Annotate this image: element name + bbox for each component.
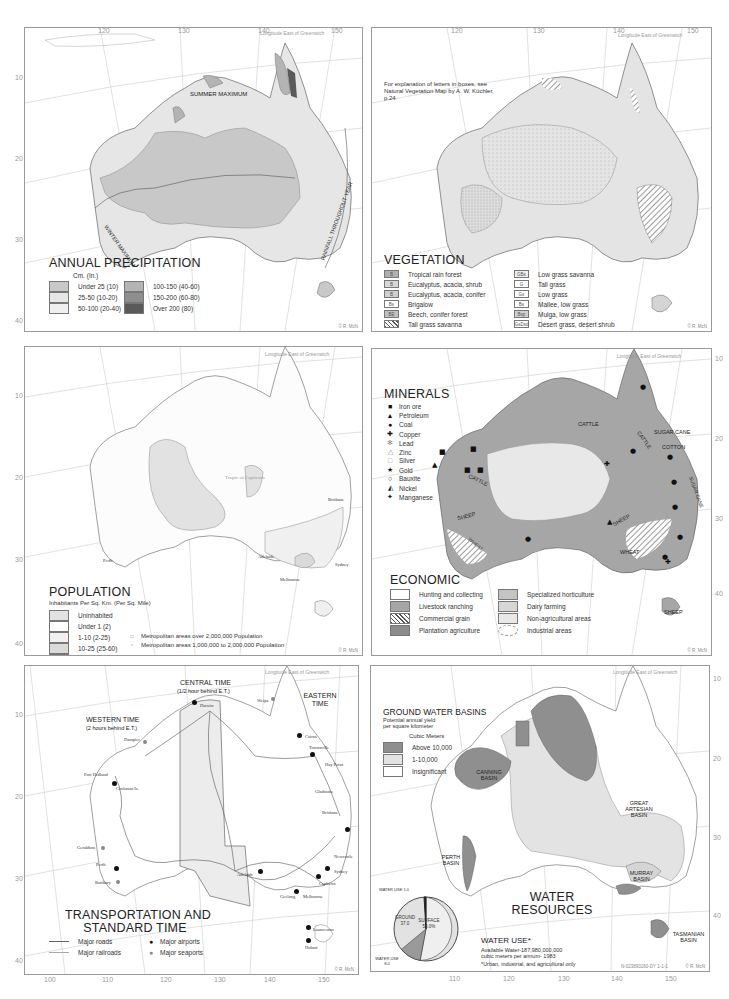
minerals-title: MINERALS [384,387,450,401]
iron-ore-icon: ■ [386,403,394,410]
longitude-label: 140 [264,976,276,983]
latitude-label: 10 [15,392,23,399]
svg-text:●: ● [672,503,678,511]
legend-item: Livestock ranching [390,601,473,612]
city-label: Sydney [335,562,349,567]
mineral-item: ●Coal [386,421,412,428]
legend-swatch [124,281,144,292]
longitude-label: 120 [160,976,172,983]
credit: © R. McN [685,964,705,969]
longitude-label: 150 [318,976,330,983]
coal-icon: ● [386,421,394,428]
longitude-label: 130 [533,27,545,34]
available-water-unit: cubic meters per annum- 1983 [481,953,556,959]
legend-swatch: GBs [514,270,529,278]
summer-maximum-label: SUMMER MAXIMUM [190,91,247,97]
latitude-label: 40 [15,317,23,324]
mineral-item: ✻Lead [386,439,413,447]
latitude-label: 20 [15,474,23,481]
longitude-label: 100 [44,976,56,983]
legend-item: Under 1 (2) [49,621,111,632]
pie-label-surface: SURFACE [417,918,441,923]
legend-item: ●Major seaports [147,949,203,956]
longitude-label: 120 [451,27,463,34]
city-label: Perth [103,558,113,563]
road-line-icon [49,941,69,942]
mineral-item: ★Gold [386,466,413,474]
metro-large-icon: □ [128,633,136,639]
credit: © R. McN [338,648,358,653]
legend-item: BEucalyptus, acacia, conifer [384,290,485,298]
longitude-label: 130 [214,976,226,983]
legend-item: 25-50 (10-20) [49,292,117,303]
longitude-label: 130 [178,27,190,34]
airport-icon: ● [147,938,155,945]
legend-item: 1-10,000 [383,754,438,765]
nickel-icon: ◭ [386,484,394,492]
railroad-line-icon [49,952,69,953]
longitude-label: 150 [687,27,699,34]
latitude-label: 30 [713,834,721,841]
longitude-label: 110 [449,975,460,982]
legend-swatch [49,654,69,656]
mineral-item: □Silver [386,457,415,464]
svg-text:✚: ✚ [604,460,610,468]
graticule-note: Longitude East of Greenwich [265,351,329,357]
legend-item: Under 25 (10) [49,281,118,292]
city-label: Melbourne [303,894,323,899]
svg-text:●: ● [677,533,683,541]
lead-icon: ✻ [386,439,394,447]
silver-icon: □ [386,457,394,464]
city-label: Hobart [305,945,318,950]
legend-item: BEBeech, conifer forest [384,310,468,318]
legend-item: Plantation agriculture [390,625,480,636]
map-label-cattle: CATTLE [578,421,599,427]
latitude-label: 10 [15,74,23,81]
legend-swatch [49,303,69,314]
metro-legend-item: ▫Metropolitan areas 1,000,000 to 2,000,0… [128,642,284,648]
credit: © R. McN [687,648,707,653]
mineral-item: ○Bauxite [386,475,421,482]
population-map [25,347,362,655]
city-label: Sydney [334,869,348,874]
gw-subtitle-2: per square kilometer [383,723,433,729]
metro-legend-item: □Metropolitan areas over 2,000,000 Popul… [128,633,262,639]
legend-item: Hunting and collecting [390,589,483,600]
latitude-label: 40 [713,912,721,919]
central-time-note: (1/2 hour behind E.T.) [177,688,230,694]
legend-swatch [49,610,69,621]
legend-swatch [124,292,144,303]
basin-label: PERTH BASIN [436,854,466,866]
water-use-title: WATER USE* [481,936,531,945]
legend-swatch: B [384,290,399,298]
water-use-pie-chart [391,894,461,964]
airport-dot [192,700,197,705]
svg-text:■: ■ [477,466,484,474]
city-label: Hay Point [325,762,343,767]
transportation-title-line2: STANDARD TIME [65,921,205,935]
latitude-label: 30 [715,515,723,522]
legend-swatch [498,613,518,624]
legend-swatch [49,292,69,303]
latitude-label: 20 [15,155,23,162]
seaport-dot [143,740,147,744]
legend-swatch [124,303,144,314]
city-label: Cockatoo Is. [116,786,139,791]
mineral-item: ✚Copper [386,430,420,438]
pie-label-ground: GROUND [393,915,417,920]
vegetation-map-panel: 120 130 140 150 Longitude East of Greenw… [371,27,712,332]
svg-text:●: ● [640,383,646,391]
longitude-label: 130 [558,975,570,982]
seaport-dot [271,697,275,701]
transportation-map-panel: Longitude East of Greenwich CENTRAL TIME… [24,665,359,975]
city-label: Port Hedland [84,772,108,777]
bauxite-icon: ○ [386,475,394,482]
basin-label: GREAT ARTESIAN BASIN [619,800,659,818]
city-label: Adelaide [258,554,274,559]
basin-label: TASMANIAN BASIN [666,931,710,943]
legend-swatch: Gs [514,290,529,298]
city-label: Geraldton [77,845,95,850]
population-subtitle: Inhabitants Per Sq. Km. (Per Sq. Mile) [49,600,151,606]
longitude-label: 110 [102,976,113,983]
map-label-sheep: SHEEP [664,609,683,615]
